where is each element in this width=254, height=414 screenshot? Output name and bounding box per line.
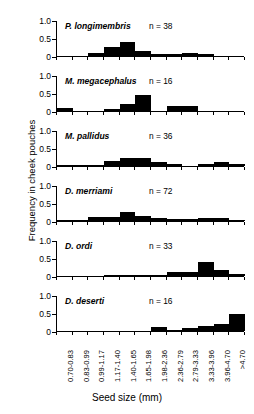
panel-d-deserti: 00.51.0D. desertin = 16: [56, 296, 244, 332]
x-tick: [103, 57, 104, 60]
bar: [167, 330, 183, 331]
x-tick-label: 3.96-4.70: [224, 350, 232, 382]
bar: [73, 220, 89, 221]
x-tick: [87, 112, 88, 115]
panel-p-longimembris: 00.51.0P. longimembrisn = 38: [56, 21, 244, 57]
x-tick: [56, 222, 57, 225]
bar: [104, 161, 120, 166]
x-tick: [72, 167, 73, 170]
x-tick: [228, 277, 229, 280]
x-tick: [103, 112, 104, 115]
x-tick: [134, 57, 135, 60]
x-tick: [72, 112, 73, 115]
x-tick: [103, 332, 104, 335]
x-tick: [213, 277, 214, 280]
x-tick: [197, 112, 198, 115]
figure-root: Frequency in cheek pouches 00.51.0P. lon…: [0, 0, 254, 414]
y-tick-label: 0.5: [39, 145, 51, 154]
x-tick: [197, 222, 198, 225]
x-tick: [166, 167, 167, 170]
x-tick: [244, 167, 245, 170]
y-tick-label: 0: [46, 328, 51, 337]
species-label: P. longimembris: [65, 21, 131, 31]
y-tick: [52, 39, 56, 40]
species-label: D. deserti: [65, 296, 104, 306]
y-tick-label: 1.0: [39, 127, 51, 136]
bar: [120, 42, 136, 56]
x-tick: [244, 332, 245, 335]
x-tick: [56, 112, 57, 115]
bar: [88, 165, 104, 166]
x-tick: [166, 222, 167, 225]
bar: [229, 274, 245, 276]
x-tick: [228, 222, 229, 225]
x-tick: [244, 222, 245, 225]
x-tick: [181, 57, 182, 60]
x-tick: [166, 112, 167, 115]
bar: [198, 262, 214, 276]
y-tick-label: 0: [46, 273, 51, 282]
y-tick: [52, 76, 56, 77]
bar: [120, 158, 136, 166]
bar: [151, 275, 167, 276]
x-tick: [213, 57, 214, 60]
x-tick: [228, 167, 229, 170]
bar: [229, 220, 245, 221]
x-tick: [87, 277, 88, 280]
x-tick: [166, 277, 167, 280]
x-tick: [56, 57, 57, 60]
bar: [214, 218, 230, 221]
bar: [214, 162, 230, 166]
y-tick-label: 0.5: [39, 255, 51, 264]
x-tick: [150, 112, 151, 115]
bar: [120, 104, 136, 111]
y-tick: [52, 314, 56, 315]
bar: [151, 162, 167, 166]
x-tick: [181, 222, 182, 225]
x-tick-label: 1.98-2.36: [161, 350, 169, 382]
x-tick: [134, 222, 135, 225]
x-tick: [72, 222, 73, 225]
x-tick: [181, 332, 182, 335]
x-tick-label: 1.40-1.65: [130, 350, 138, 382]
bar: [104, 47, 120, 56]
x-tick: [197, 332, 198, 335]
y-tick: [52, 131, 56, 132]
bar: [135, 51, 151, 56]
bar: [135, 95, 151, 111]
x-tick: [119, 222, 120, 225]
y-tick: [52, 296, 56, 297]
y-tick-label: 0: [46, 108, 51, 117]
x-tick: [103, 222, 104, 225]
y-tick-label: 0: [46, 218, 51, 227]
x-tick: [150, 57, 151, 60]
y-tick-label: 0.5: [39, 310, 51, 319]
x-tick: [87, 167, 88, 170]
x-tick: [181, 112, 182, 115]
x-tick: [213, 167, 214, 170]
sample-size-label: n = 33: [149, 241, 173, 251]
x-tick: [150, 277, 151, 280]
y-tick-label: 1.0: [39, 182, 51, 191]
y-tick-label: 0: [46, 53, 51, 62]
panel-m-megacephalus: 00.51.0M. megacephalusn = 16: [56, 76, 244, 112]
x-tick: [72, 332, 73, 335]
bar: [104, 217, 120, 221]
x-tick: [56, 167, 57, 170]
x-tick: [134, 277, 135, 280]
sample-size-label: n = 38: [149, 21, 173, 31]
x-tick: [134, 332, 135, 335]
bar: [167, 219, 183, 221]
bar: [57, 165, 73, 166]
y-tick: [52, 204, 56, 205]
x-tick: [197, 167, 198, 170]
sample-size-label: n = 16: [149, 296, 173, 306]
x-tick: [103, 277, 104, 280]
x-tick-label: 0.70-0.83: [67, 350, 75, 382]
bar: [104, 109, 120, 111]
y-tick: [52, 94, 56, 95]
bar: [73, 165, 89, 166]
x-tick-label: 3.33-3.96: [208, 350, 216, 382]
x-tick-label: >4.70: [239, 350, 247, 369]
y-tick-label: 1.0: [39, 17, 51, 26]
